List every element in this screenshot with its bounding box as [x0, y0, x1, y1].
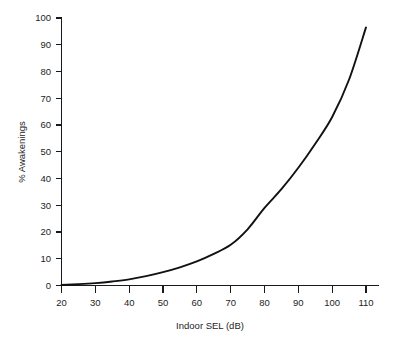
y-tick-label: 50 [40, 146, 51, 157]
y-tick-label: 70 [40, 93, 51, 104]
x-tick-label: 110 [358, 297, 373, 308]
y-tick-label: 90 [40, 39, 51, 50]
x-tick-label: 40 [124, 297, 135, 308]
x-tick-label: 30 [90, 297, 101, 308]
x-axis-title: Indoor SEL (dB) [176, 320, 244, 331]
x-tick-label: 100 [324, 297, 340, 308]
y-tick-label: 60 [40, 119, 51, 130]
y-tick-label: 80 [40, 66, 51, 77]
y-tick-label: 10 [40, 253, 51, 264]
chart-plot-area: 0102030405060708090100 20304050607080901… [0, 0, 397, 348]
x-tick-label: 50 [158, 297, 169, 308]
x-tick-label: 70 [225, 297, 236, 308]
x-tick-label: 60 [192, 297, 203, 308]
y-tick-label: 30 [40, 200, 51, 211]
y-tick-label: 20 [40, 226, 51, 237]
x-tick-label: 80 [259, 297, 270, 308]
chart-background [0, 0, 397, 348]
y-tick-label: 40 [40, 173, 51, 184]
x-tick-label: 20 [56, 297, 67, 308]
y-tick-label: 0 [46, 280, 51, 291]
y-tick-label: 100 [35, 12, 51, 23]
x-tick-label: 90 [293, 297, 304, 308]
y-axis-title: % Awakenings [16, 121, 27, 183]
chart-figure: 0102030405060708090100 20304050607080901… [0, 0, 397, 348]
